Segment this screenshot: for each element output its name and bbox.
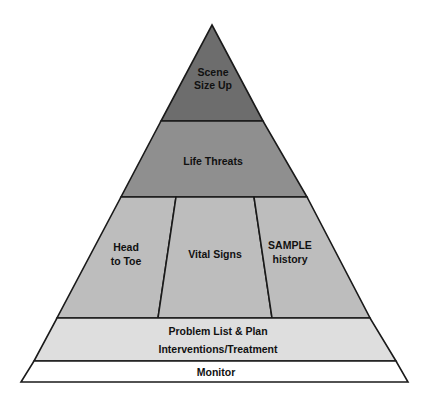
label-life-threats: Life Threats (183, 155, 243, 167)
assessment-pyramid: Scene Size Up Life Threats Head to Toe V… (0, 0, 428, 402)
label-scene-line2: Size Up (194, 79, 232, 91)
label-sample-line1: SAMPLE (268, 239, 312, 251)
label-head-line2: to Toe (111, 255, 142, 267)
label-problem-list: Problem List & Plan (168, 325, 267, 337)
label-interventions: Interventions/Treatment (158, 343, 278, 355)
label-scene-line1: Scene (198, 66, 229, 78)
tier-sample-history (254, 197, 370, 318)
label-monitor: Monitor (197, 366, 236, 378)
label-head-line1: Head (113, 241, 139, 253)
label-sample-line2: history (272, 253, 307, 265)
label-vital-signs: Vital Signs (188, 248, 242, 260)
